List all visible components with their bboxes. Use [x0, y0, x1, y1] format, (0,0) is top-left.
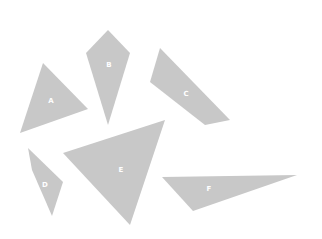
shape-a-label: A [48, 97, 54, 105]
shape-d: D [28, 148, 63, 216]
shape-b: B [86, 30, 130, 125]
shape-e-polygon [63, 120, 165, 225]
shapes-canvas: A B C D E F [0, 0, 322, 239]
shape-f: F [162, 175, 297, 211]
shape-c-polygon [150, 48, 230, 125]
shape-b-label: B [106, 61, 111, 69]
shape-a: A [20, 63, 88, 133]
shape-b-polygon [86, 30, 130, 125]
shape-e: E [63, 120, 165, 225]
shape-f-label: F [207, 185, 212, 193]
shape-c-label: C [183, 90, 188, 98]
shape-c: C [150, 48, 230, 125]
shape-e-label: E [119, 166, 124, 174]
shape-d-label: D [42, 181, 48, 189]
shape-a-polygon [20, 63, 88, 133]
shape-f-polygon [162, 175, 297, 211]
